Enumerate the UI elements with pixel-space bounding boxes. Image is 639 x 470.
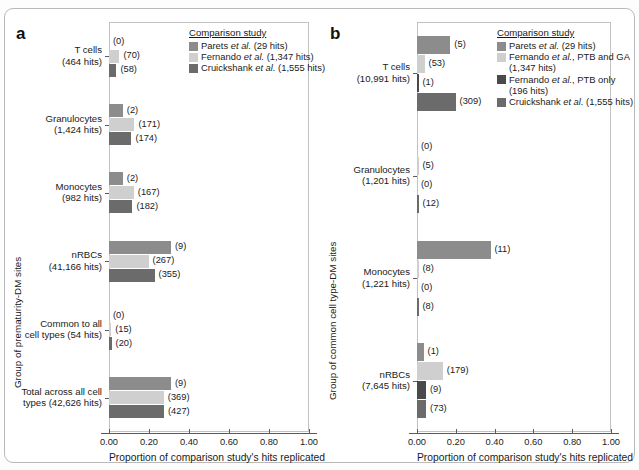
panel-letter-a: a xyxy=(16,24,25,44)
legend-item-label: Parets et al. (29 hits) xyxy=(509,40,596,51)
group-label-count: (1,201 hits) xyxy=(362,175,410,186)
group-label-count: (1,221 hits) xyxy=(362,278,410,289)
legend-title-a: Comparison study xyxy=(189,27,325,38)
bar xyxy=(417,362,443,380)
y-axis-tick xyxy=(105,125,109,126)
group-label: Monocytes(1,221 hits) xyxy=(310,266,410,289)
x-axis-tick-label: 0.60 xyxy=(513,437,553,447)
bar-value-label: (309) xyxy=(460,96,482,106)
bar-value-label: (267) xyxy=(153,255,175,265)
legend-item-label: Cruickshank et al. (1,555 hits) xyxy=(509,96,633,107)
x-axis-title-b: Proportion of comparison study's hits re… xyxy=(417,452,611,463)
bar xyxy=(109,172,123,185)
bar-value-label: (0) xyxy=(113,310,124,320)
legend-item[interactable]: Cruickshank et al. (1,555 hits) xyxy=(189,62,325,73)
legend-item[interactable]: Parets et al. (29 hits) xyxy=(189,40,325,51)
legend-swatch-icon xyxy=(497,75,506,84)
legend-item[interactable]: Fernando et al., PTB only(196 hits) xyxy=(497,74,633,96)
legend-swatch-icon xyxy=(189,64,198,73)
x-axis-tick-label: 0.80 xyxy=(249,437,289,447)
y-axis-tick xyxy=(105,56,109,57)
group-label-name: Granulocytes xyxy=(45,113,102,124)
bar-value-label: (8) xyxy=(423,263,434,273)
bar-value-label: (20) xyxy=(116,338,133,348)
bar-value-label: (53) xyxy=(429,58,446,68)
x-axis-tick xyxy=(611,429,612,433)
bar-value-label: (0) xyxy=(113,36,124,46)
group-label-count: types (42,626 hits) xyxy=(23,397,102,408)
bar-value-label: (167) xyxy=(138,187,160,197)
legend-swatch-icon xyxy=(189,53,198,62)
x-axis-tick-label: 0.00 xyxy=(89,437,129,447)
y-axis-tick xyxy=(105,261,109,262)
bar-value-label: (179) xyxy=(447,365,469,375)
group-label-name: Common to all xyxy=(40,318,102,329)
group-label-name: Granulocytes xyxy=(353,164,410,175)
bar xyxy=(109,104,123,117)
bar xyxy=(109,377,171,390)
legend-item[interactable]: Fernando et al. (1,347 hits) xyxy=(189,51,325,62)
bar-value-label: (174) xyxy=(135,133,157,143)
bar-value-label: (9) xyxy=(430,384,441,394)
bar-value-label: (12) xyxy=(423,198,440,208)
x-axis-tick-label: 0.20 xyxy=(129,437,169,447)
x-axis-tick xyxy=(495,429,496,433)
group-label-count: (464 hits) xyxy=(62,56,102,67)
group-label: T cells(10,991 hits) xyxy=(310,61,410,84)
group-label-count: (10,991 hits) xyxy=(357,73,410,84)
bar-value-label: (5) xyxy=(454,39,465,49)
bar xyxy=(109,186,134,199)
x-axis-line xyxy=(409,433,619,434)
bar-value-label: (9) xyxy=(175,241,186,251)
bar xyxy=(109,64,116,77)
x-axis-tick xyxy=(533,429,534,433)
bar xyxy=(109,241,171,254)
group-label-count: (41,166 hits) xyxy=(49,261,102,272)
bar-value-label: (8) xyxy=(423,301,434,311)
group-label-name: T cells xyxy=(74,44,102,55)
bar xyxy=(417,381,426,399)
bar-value-label: (0) xyxy=(421,282,432,292)
group-label: nRBCs(41,166 hits) xyxy=(2,249,102,272)
bar xyxy=(417,195,419,213)
group-label-name: Total across all cell xyxy=(21,386,102,397)
group-label: Granulocytes(1,201 hits) xyxy=(310,164,410,187)
bar xyxy=(417,36,450,54)
bar xyxy=(109,323,111,336)
bar-value-label: (5) xyxy=(423,160,434,170)
bar xyxy=(109,405,164,418)
bar xyxy=(417,157,419,175)
plot-area-a xyxy=(109,22,309,432)
bar xyxy=(417,298,419,316)
group-label-name: T cells xyxy=(382,61,410,72)
x-axis-tick-label: 1.00 xyxy=(289,437,329,447)
legend-item-label: Cruickshank et al. (1,555 hits) xyxy=(201,62,325,73)
x-axis-tick xyxy=(417,429,418,433)
group-label-name: Monocytes xyxy=(364,266,410,277)
group-label-count: (982 hits) xyxy=(62,192,102,203)
bar xyxy=(417,93,456,111)
y-axis-tick xyxy=(413,73,417,74)
x-axis-tick xyxy=(229,429,230,433)
x-axis-line xyxy=(101,433,317,434)
x-axis-tick-label: 0.40 xyxy=(475,437,515,447)
x-axis-tick xyxy=(572,429,573,433)
x-axis-tick xyxy=(309,429,310,433)
x-axis-tick-label: 1.00 xyxy=(591,437,631,447)
legend-item[interactable]: Parets et al. (29 hits) xyxy=(497,40,633,51)
legend-item[interactable]: Fernando et al., PTB and GA(1,347 hits) xyxy=(497,51,633,73)
x-axis-tick-label: 0.60 xyxy=(209,437,249,447)
x-axis-tick xyxy=(456,429,457,433)
bar xyxy=(109,118,134,131)
bar xyxy=(109,391,164,404)
y-axis-tick xyxy=(105,398,109,399)
group-label-name: nRBCs xyxy=(72,249,102,260)
legend-swatch-icon xyxy=(497,53,506,62)
bar-value-label: (355) xyxy=(159,269,181,279)
legend-item[interactable]: Cruickshank et al. (1,555 hits) xyxy=(497,96,633,107)
bar-value-label: (9) xyxy=(175,378,186,388)
group-label: Monocytes(982 hits) xyxy=(2,181,102,204)
bar xyxy=(417,260,419,278)
x-axis-tick xyxy=(149,429,150,433)
bar xyxy=(109,269,155,282)
